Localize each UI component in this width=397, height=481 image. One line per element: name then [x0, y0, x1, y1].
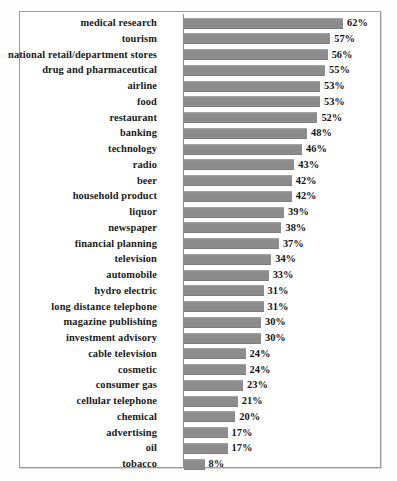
bar-category-label: cellular telephone	[0, 393, 157, 409]
bar-track	[184, 65, 325, 76]
bar-track	[184, 18, 343, 29]
bar-row: television34%	[20, 251, 380, 267]
bar-fill	[184, 207, 284, 218]
bar-track	[184, 459, 205, 470]
bar-category-label: drug and pharmaceutical	[0, 62, 157, 78]
bar-value-label: 52%	[321, 110, 342, 126]
bar-category-label: medical research	[0, 15, 157, 31]
bar-row: advertising17%	[20, 425, 380, 441]
bar-track	[184, 427, 228, 438]
bar-value-label: 23%	[247, 377, 268, 393]
bar-row: liquor39%	[20, 204, 380, 220]
bar-row: medical research62%	[20, 15, 380, 31]
bar-track	[184, 159, 294, 170]
bar-value-label: 48%	[311, 125, 332, 141]
bar-value-label: 42%	[296, 188, 317, 204]
bar-fill	[184, 18, 343, 29]
bar-track	[184, 396, 238, 407]
bar-category-label: hydro electric	[0, 283, 157, 299]
bar-value-label: 17%	[232, 425, 253, 441]
chart-figure: medical research62%tourism57%national re…	[0, 0, 397, 481]
bar-track	[184, 175, 292, 186]
bar-fill	[184, 333, 261, 344]
bar-track	[184, 333, 261, 344]
bar-value-label: 42%	[296, 173, 317, 189]
bar-track	[184, 112, 317, 123]
bar-fill	[184, 128, 307, 139]
bar-category-label: chemical	[0, 409, 157, 425]
bar-row: newspaper38%	[20, 220, 380, 236]
bar-fill	[184, 222, 281, 233]
bar-value-label: 33%	[273, 267, 294, 283]
bar-value-label: 62%	[347, 15, 368, 31]
bar-fill	[184, 144, 302, 155]
bar-value-label: 53%	[324, 94, 345, 110]
bar-value-label: 39%	[288, 204, 309, 220]
bar-category-label: newspaper	[0, 220, 157, 236]
bar-value-label: 8%	[209, 456, 225, 472]
bar-category-label: long distance telephone	[0, 299, 157, 315]
bar-category-label: food	[0, 94, 157, 110]
bar-row: chemical20%	[20, 409, 380, 425]
bar-row: tobacco8%	[20, 456, 380, 472]
bar-category-label: television	[0, 251, 157, 267]
bar-category-label: oil	[0, 440, 157, 456]
bar-row: cable television24%	[20, 346, 380, 362]
bar-category-label: radio	[0, 157, 157, 173]
bar-fill	[184, 411, 235, 422]
bar-category-label: magazine publishing	[0, 314, 157, 330]
bar-track	[184, 411, 235, 422]
bar-fill	[184, 238, 279, 249]
bar-row: airline53%	[20, 78, 380, 94]
bar-track	[184, 81, 320, 92]
bar-row: national retail/department stores56%	[20, 47, 380, 63]
bar-track	[184, 96, 320, 107]
bar-track	[184, 49, 328, 60]
bar-fill	[184, 96, 320, 107]
bar-value-label: 30%	[265, 330, 286, 346]
bar-track	[184, 317, 261, 328]
bar-track	[184, 270, 269, 281]
bar-row: technology46%	[20, 141, 380, 157]
bar-track	[184, 128, 307, 139]
bar-category-label: consumer gas	[0, 377, 157, 393]
bar-fill	[184, 396, 238, 407]
bar-category-label: cable television	[0, 346, 157, 362]
bar-track	[184, 443, 228, 454]
bar-fill	[184, 380, 243, 391]
bar-value-label: 46%	[306, 141, 327, 157]
bar-value-label: 21%	[242, 393, 263, 409]
bar-row: cosmetic24%	[20, 362, 380, 378]
bar-value-label: 30%	[265, 314, 286, 330]
bar-category-label: airline	[0, 78, 157, 94]
bar-row: cellular telephone21%	[20, 393, 380, 409]
bar-fill	[184, 49, 328, 60]
bar-track	[184, 364, 246, 375]
bar-category-label: banking	[0, 125, 157, 141]
bar-fill	[184, 254, 271, 265]
bar-category-label: advertising	[0, 425, 157, 441]
bar-row: drug and pharmaceutical55%	[20, 62, 380, 78]
bar-fill	[184, 191, 292, 202]
bar-fill	[184, 427, 228, 438]
bar-fill	[184, 285, 264, 296]
bar-track	[184, 380, 243, 391]
bar-row: automobile33%	[20, 267, 380, 283]
bar-track	[184, 33, 330, 44]
bar-row: financial planning37%	[20, 236, 380, 252]
bar-category-label: national retail/department stores	[0, 47, 157, 63]
bar-fill	[184, 317, 261, 328]
bar-category-label: restaurant	[0, 110, 157, 126]
bar-fill	[184, 459, 205, 470]
bar-category-label: automobile	[0, 267, 157, 283]
bar-category-label: technology	[0, 141, 157, 157]
bar-fill	[184, 65, 325, 76]
plot-area: medical research62%tourism57%national re…	[20, 12, 380, 467]
bar-fill	[184, 364, 246, 375]
bar-category-label: cosmetic	[0, 362, 157, 378]
bar-value-label: 17%	[232, 440, 253, 456]
bar-row: radio43%	[20, 157, 380, 173]
bar-track	[184, 301, 264, 312]
bar-fill	[184, 81, 320, 92]
bar-value-label: 53%	[324, 78, 345, 94]
